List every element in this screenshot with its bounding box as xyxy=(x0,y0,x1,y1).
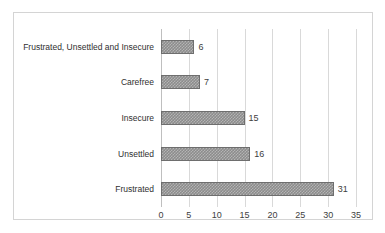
bar-value-label: 6 xyxy=(198,42,203,51)
category-label: Insecure xyxy=(15,100,154,136)
tick-label-5: 5 xyxy=(186,209,191,221)
bar: 6 xyxy=(161,40,194,54)
bar-rows: 67151631 xyxy=(161,29,356,207)
tick-label-30: 30 xyxy=(323,209,333,221)
bar-row: 6 xyxy=(161,29,356,65)
category-label: Unsettled xyxy=(15,136,154,172)
bar-value-label: 31 xyxy=(338,185,348,194)
category-label: Frustrated xyxy=(15,171,154,207)
bar: 7 xyxy=(161,75,200,89)
bar: 16 xyxy=(161,147,250,161)
category-label: Frustrated, Unsettled and Insecure xyxy=(15,29,154,65)
bar: 15 xyxy=(161,111,245,125)
bar-value-label: 16 xyxy=(254,149,264,158)
bar-row: 7 xyxy=(161,65,356,101)
plot-area: 67151631 xyxy=(161,29,356,207)
tick-label-10: 10 xyxy=(212,209,222,221)
tick-label-20: 20 xyxy=(267,209,277,221)
bar-value-label: 7 xyxy=(204,78,209,87)
tick-label-15: 15 xyxy=(240,209,250,221)
tick-label-0: 0 xyxy=(158,209,163,221)
chart-screenshot: 67151631 Frustrated, Unsettled and Insec… xyxy=(0,0,385,233)
tick-label-35: 35 xyxy=(351,209,361,221)
bar-row: 31 xyxy=(161,171,356,207)
bar: 31 xyxy=(161,182,334,196)
bar-row: 16 xyxy=(161,136,356,172)
tick-label-25: 25 xyxy=(295,209,305,221)
category-label: Carefree xyxy=(15,65,154,101)
chart-frame: 67151631 Frustrated, Unsettled and Insec… xyxy=(13,12,373,220)
gridline-35 xyxy=(356,29,357,207)
bar-value-label: 15 xyxy=(249,113,259,122)
bar-row: 15 xyxy=(161,100,356,136)
x-axis-tick-labels: 05101520253035 xyxy=(161,209,356,223)
category-axis-labels: Frustrated, Unsettled and InsecureCarefr… xyxy=(15,29,158,207)
